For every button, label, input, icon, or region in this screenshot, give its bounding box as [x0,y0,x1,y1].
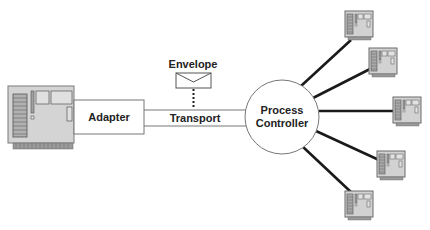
device-icon [369,48,397,77]
host-board-icon [8,86,74,149]
controller-label-line1: Process [247,104,317,117]
envelope-label: Envelope [158,58,228,71]
device-icon [393,97,421,126]
device-icon [345,11,373,40]
device-icon [345,191,373,220]
transport-label: Transport [160,112,230,125]
controller-label-line2: Controller [247,117,317,130]
envelope-icon [176,73,211,109]
adapter-label: Adapter [74,111,144,124]
device-icon [377,151,405,180]
